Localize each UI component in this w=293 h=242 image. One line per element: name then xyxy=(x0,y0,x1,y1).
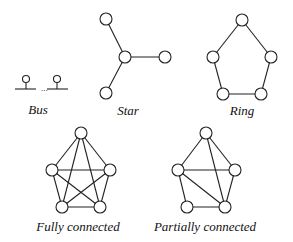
node xyxy=(94,201,106,213)
node xyxy=(265,51,277,63)
bus-ellipsis: ... xyxy=(41,83,48,93)
topology-ring xyxy=(207,14,277,100)
node xyxy=(46,164,58,176)
topology-diagram: ... xyxy=(0,0,293,242)
topology-star xyxy=(100,13,171,99)
node xyxy=(219,201,231,213)
node xyxy=(100,87,112,99)
node xyxy=(255,88,267,100)
label-fully-connected: Fully connected xyxy=(36,219,119,235)
node xyxy=(229,164,241,176)
node xyxy=(75,127,87,139)
label-star: Star xyxy=(117,103,139,119)
node xyxy=(119,51,131,63)
node xyxy=(200,127,212,139)
node xyxy=(172,164,184,176)
label-partially-connected: Partially connected xyxy=(154,219,256,235)
edge xyxy=(178,133,206,170)
node xyxy=(207,51,219,63)
node xyxy=(217,88,229,100)
node xyxy=(236,14,248,26)
topology-fully-connected xyxy=(46,127,116,213)
bus-node xyxy=(54,76,61,83)
edge xyxy=(213,20,242,57)
edge xyxy=(242,20,271,57)
topology-partially-connected xyxy=(172,127,241,213)
topology-bus: ... xyxy=(15,76,68,94)
node xyxy=(181,201,193,213)
node xyxy=(159,51,171,63)
node xyxy=(104,164,116,176)
bus-node xyxy=(23,76,30,83)
node xyxy=(56,201,68,213)
label-bus: Bus xyxy=(28,102,48,118)
label-ring: Ring xyxy=(230,103,255,119)
node xyxy=(100,13,112,25)
